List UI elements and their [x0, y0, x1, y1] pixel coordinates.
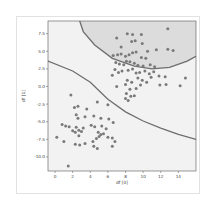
data-point: [140, 56, 143, 59]
data-point: [106, 103, 109, 106]
data-point: [107, 117, 110, 120]
chart-figure: 024681012147.55.02.50.0-2.5-5.0-7.5-10.0…: [16, 16, 200, 194]
data-point: [106, 136, 109, 139]
data-point: [61, 123, 64, 126]
x-tick-label: 0: [54, 174, 57, 179]
data-point: [126, 79, 129, 82]
data-point: [84, 115, 87, 118]
data-point: [142, 65, 145, 68]
y-tick-label: 2.5: [38, 66, 45, 71]
data-point: [122, 63, 125, 66]
data-point: [68, 125, 71, 128]
data-point: [164, 75, 167, 78]
data-point: [135, 72, 138, 75]
data-point: [77, 134, 80, 137]
y-tick-label: 5.0: [38, 49, 45, 54]
data-point: [64, 124, 67, 127]
data-point: [62, 140, 65, 143]
data-point: [121, 70, 124, 73]
data-point: [74, 131, 77, 134]
data-point: [141, 79, 144, 82]
data-point: [139, 84, 142, 87]
data-point: [113, 140, 116, 143]
data-point: [76, 105, 79, 108]
x-tick-label: 14: [176, 174, 182, 179]
data-point: [172, 49, 175, 52]
data-point: [102, 132, 105, 135]
data-point: [184, 77, 187, 80]
x-tick-label: 2: [71, 174, 74, 179]
x-tick-label: 10: [140, 174, 146, 179]
data-point: [116, 53, 119, 56]
data-point: [75, 113, 78, 116]
data-point: [120, 53, 123, 56]
data-point: [85, 108, 88, 111]
data-point: [92, 145, 95, 148]
x-axis-label: df [0]: [116, 180, 128, 185]
data-point: [92, 115, 95, 118]
data-point: [134, 39, 137, 42]
data-point: [118, 62, 121, 65]
data-point: [153, 65, 156, 68]
data-point: [111, 136, 114, 139]
data-point: [124, 55, 127, 58]
data-point: [76, 117, 79, 120]
data-point: [78, 143, 81, 146]
data-point: [158, 84, 161, 87]
data-point: [152, 70, 155, 73]
data-point: [112, 54, 115, 57]
data-point: [130, 40, 133, 43]
data-point: [129, 95, 132, 98]
data-point: [136, 64, 139, 67]
data-point: [133, 62, 136, 65]
data-point: [130, 81, 133, 84]
data-point: [96, 100, 99, 103]
data-point: [149, 63, 152, 66]
data-point: [105, 127, 108, 130]
data-point: [128, 53, 131, 56]
data-point: [141, 42, 144, 45]
data-point: [112, 121, 115, 124]
data-point: [113, 68, 116, 71]
y-tick-label: -7.5: [37, 137, 46, 142]
data-point: [148, 72, 151, 75]
data-point: [96, 147, 99, 150]
data-point: [127, 99, 130, 102]
data-point: [67, 165, 70, 168]
data-point: [124, 97, 127, 100]
data-point: [115, 36, 118, 39]
data-point: [71, 129, 74, 132]
data-point: [146, 50, 149, 53]
data-point: [99, 117, 102, 120]
data-point: [138, 71, 141, 74]
data-point: [128, 60, 131, 63]
data-point: [179, 84, 182, 87]
data-point: [114, 61, 117, 64]
y-tick-label: -10.0: [34, 154, 45, 159]
data-point: [125, 92, 128, 95]
data-point: [131, 33, 134, 36]
data-point: [150, 76, 153, 79]
data-point: [135, 50, 138, 53]
data-point: [131, 67, 134, 70]
y-tick-label: 7.5: [38, 31, 45, 36]
data-point: [91, 140, 94, 143]
data-point: [115, 85, 118, 88]
data-point: [82, 127, 85, 130]
data-point: [120, 46, 123, 49]
data-point: [126, 32, 129, 35]
data-point: [55, 136, 58, 139]
x-tick-label: 8: [124, 174, 127, 179]
data-point: [155, 48, 158, 51]
y-axis-label: df [1]: [21, 90, 26, 102]
data-point: [80, 130, 83, 133]
scatter-plot: 024681012147.55.02.50.0-2.5-5.0-7.5-10.0…: [17, 17, 199, 193]
data-point: [128, 88, 131, 91]
data-point: [136, 77, 139, 80]
data-point: [74, 143, 77, 146]
x-tick-label: 12: [158, 174, 164, 179]
data-point: [75, 126, 78, 129]
data-point: [144, 57, 147, 60]
data-point: [135, 87, 138, 90]
y-tick-label: -5.0: [37, 119, 46, 124]
